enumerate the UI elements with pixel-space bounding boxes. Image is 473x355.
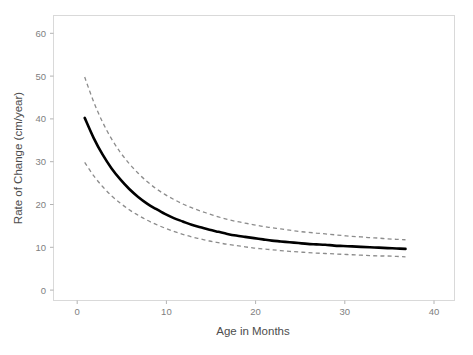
- y-tick-label: 20: [35, 199, 46, 210]
- y-axis-title: Rate of Change (cm/year): [12, 92, 24, 224]
- y-tick-label: 0: [41, 285, 46, 296]
- y-tick-label: 40: [35, 113, 46, 124]
- chart-background: [0, 0, 473, 355]
- x-tick-label: 40: [429, 306, 440, 317]
- x-axis-title: Age in Months: [216, 325, 290, 337]
- x-tick-label: 20: [250, 306, 261, 317]
- y-tick-label: 30: [35, 156, 46, 167]
- x-tick-label: 30: [340, 306, 351, 317]
- y-tick-label: 50: [35, 71, 46, 82]
- y-tick-label: 10: [35, 242, 46, 253]
- x-tick-label: 10: [161, 306, 172, 317]
- x-tick-label: 0: [75, 306, 80, 317]
- growth-velocity-chart: 0 10 20 30 40 50 60 0 10 20 30 40 Age in…: [0, 0, 473, 355]
- y-tick-label: 60: [35, 28, 46, 39]
